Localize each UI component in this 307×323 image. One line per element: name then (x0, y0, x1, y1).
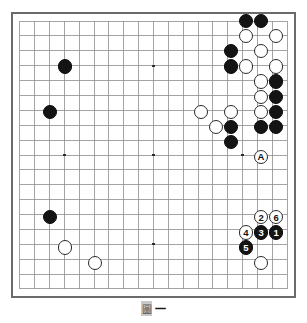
black-stone-0[interactable] (239, 14, 253, 28)
black-stone-24[interactable] (43, 210, 57, 224)
white-stone-16[interactable] (224, 105, 238, 119)
white-stone-26[interactable] (88, 256, 102, 270)
stone-marker-a-label: A (258, 152, 265, 162)
white-stone-25[interactable] (58, 240, 72, 254)
white-stone-27[interactable] (254, 256, 268, 270)
move-6-label: 6 (273, 212, 278, 222)
black-stone-6[interactable] (58, 59, 72, 73)
figure-caption: 圖一 (0, 300, 307, 316)
move-2-label: 2 (258, 212, 263, 222)
go-diagram-figure: A123456 圖一 (0, 0, 307, 323)
black-stone-21[interactable] (254, 120, 268, 134)
black-stone-23[interactable] (224, 135, 238, 149)
white-stone-9[interactable] (269, 59, 283, 73)
move-4[interactable]: 4 (239, 225, 253, 239)
stone-marker-a[interactable]: A (254, 150, 268, 164)
move-5[interactable]: 5 (239, 240, 253, 254)
figure-caption-glyph: 圖 (141, 301, 152, 316)
move-2[interactable]: 2 (254, 210, 268, 224)
move-1-label: 1 (273, 227, 278, 237)
white-stone-19[interactable] (209, 120, 223, 134)
black-stone-4[interactable] (224, 44, 238, 58)
white-stone-12[interactable] (254, 74, 268, 88)
black-stone-20[interactable] (224, 120, 238, 134)
move-5-label: 5 (243, 243, 248, 253)
white-stone-5[interactable] (254, 44, 268, 58)
move-1[interactable]: 1 (269, 225, 283, 239)
white-stone-17[interactable] (254, 105, 268, 119)
stone-layer: A123456 (13, 14, 294, 296)
black-stone-11[interactable] (43, 105, 57, 119)
white-stone-8[interactable] (239, 59, 253, 73)
figure-caption-number: 一 (155, 300, 166, 316)
white-stone-3[interactable] (269, 29, 283, 43)
move-3[interactable]: 3 (254, 225, 268, 239)
black-stone-18[interactable] (269, 105, 283, 119)
black-stone-13[interactable] (269, 90, 283, 104)
black-stone-1[interactable] (254, 14, 268, 28)
move-6[interactable]: 6 (269, 210, 283, 224)
white-stone-15[interactable] (194, 105, 208, 119)
go-board: A123456 (11, 12, 296, 298)
black-stone-10[interactable] (269, 74, 283, 88)
move-4-label: 4 (243, 227, 248, 237)
move-3-label: 3 (258, 227, 263, 237)
white-stone-2[interactable] (239, 29, 253, 43)
black-stone-7[interactable] (224, 59, 238, 73)
black-stone-22[interactable] (269, 120, 283, 134)
white-stone-14[interactable] (254, 90, 268, 104)
